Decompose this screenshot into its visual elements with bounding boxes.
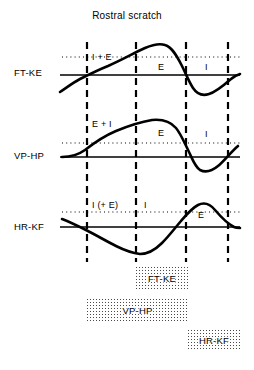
phase-annotation-ft-ke-3: I bbox=[205, 62, 208, 72]
trace-label-vp-hp: VP-HP bbox=[14, 150, 44, 161]
trace-label-ft-ke: FT-KE bbox=[14, 67, 42, 78]
rostral-scratch-figure: Rostral scratch FT-KE VP-HP HR-KF I + E … bbox=[0, 0, 254, 370]
phase-annotation-hr-kf-3: E bbox=[198, 210, 204, 220]
phase-annotation-hr-kf-1: I (+ E) bbox=[92, 200, 118, 210]
phase-annotation-ft-ke-1: I + E bbox=[92, 52, 112, 62]
phase-bar-vp-hp: VP-HP bbox=[87, 299, 188, 321]
phase-annotation-vp-hp-3: I bbox=[205, 129, 208, 139]
phase-annotation-vp-hp-1: E + I bbox=[92, 119, 112, 129]
phase-bar-hr-kf: HR-KF bbox=[188, 330, 240, 351]
phase-bar-label-ft-ke: FT-KE bbox=[148, 273, 176, 284]
phase-bar-label-hr-kf: HR-KF bbox=[199, 335, 229, 346]
phase-annotation-hr-kf-2: I bbox=[144, 200, 147, 210]
phase-bar-ft-ke: FT-KE bbox=[136, 267, 188, 289]
trace-label-hr-kf: HR-KF bbox=[14, 221, 44, 232]
phase-annotation-vp-hp-2: E bbox=[158, 128, 164, 138]
dotted-reference-lines bbox=[62, 57, 240, 212]
phase-bar-label-vp-hp: VP-HP bbox=[122, 305, 152, 316]
phase-annotation-ft-ke-2: E bbox=[158, 62, 164, 72]
